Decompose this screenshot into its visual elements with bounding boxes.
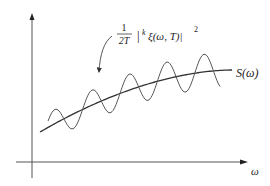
annotation-arrow <box>99 36 112 72</box>
y-axis-arrowhead <box>30 13 35 20</box>
curve-label: S(ω) <box>236 66 258 80</box>
spectrum-curve <box>40 70 232 132</box>
superscript-k: k <box>142 28 146 37</box>
diagram-canvas: 1 2T | k ξ(ω, T)| 2 S(ω) ω <box>0 0 270 186</box>
expression: ξ(ω, T)| <box>148 30 182 43</box>
periodogram-wave <box>48 54 220 129</box>
fraction-numerator: 1 <box>122 22 127 33</box>
exponent: 2 <box>194 25 198 34</box>
x-axis-arrowhead <box>240 160 248 165</box>
abs-open: | <box>137 28 140 43</box>
x-axis-label: ω <box>251 165 259 177</box>
fraction-denominator: 2T <box>119 35 131 46</box>
